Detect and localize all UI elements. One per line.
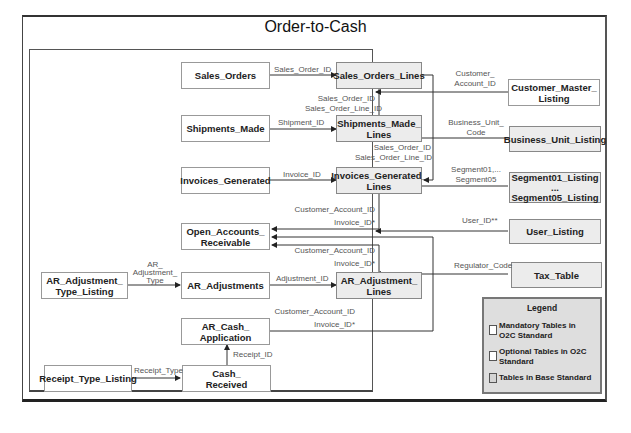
label-line-2: Invoice_ID* xyxy=(290,216,375,229)
table-label: Sales_Orders xyxy=(195,70,256,81)
label-line-2: Invoice_ID* xyxy=(290,257,375,270)
table-cash-received[interactable]: Cash_ Received xyxy=(182,365,271,392)
table-receipt-type-listing[interactable]: Receipt_Type_Listing xyxy=(44,365,132,392)
table-label-2: Lines xyxy=(367,286,392,297)
label-user-id: User_ID** xyxy=(462,216,498,226)
label-shipment-id: Shipment_ID xyxy=(278,118,324,128)
swatch-icon xyxy=(489,325,497,335)
table-label-1: Customer_Master_ xyxy=(511,82,597,93)
label-sales-order-id: Sales_Order_ID xyxy=(274,65,331,75)
label-line-1: Segment01,... xyxy=(450,165,502,175)
table-label: AR_Adjustments xyxy=(187,280,264,291)
table-label-2: Application xyxy=(200,332,252,343)
label-line-2: Account_ID xyxy=(450,79,500,89)
legend-item-optional: Optional Tables in O2CStandard xyxy=(489,347,586,367)
legend-text: Mandatory Tables inO2C Standard xyxy=(499,321,576,341)
table-sales-orders-lines[interactable]: Sales_Orders_Lines xyxy=(336,62,422,89)
label-line-1: Sales_Order_ID xyxy=(305,94,375,104)
label-line-2: Code xyxy=(448,128,504,138)
label-line-2: Sales_Order_Line_ID xyxy=(305,104,375,114)
table-label-2: Receivable xyxy=(201,237,251,248)
table-customer-master-listing[interactable]: Customer_Master_ Listing xyxy=(508,79,600,106)
label-line-2: Sales_Order_Line_ID xyxy=(355,153,431,163)
legend-text-line-1: Optional Tables in O2C xyxy=(499,347,586,356)
table-invoices-generated-lines[interactable]: Invoices_Generated_ Lines xyxy=(336,167,422,194)
legend-text-line-2: O2C Standard xyxy=(499,331,552,340)
label-receipt-id: Receipt_ID xyxy=(233,350,273,360)
legend-item-base: Tables in Base Standard xyxy=(489,373,591,383)
table-label: Tax_Table xyxy=(534,270,579,281)
label-sml-to-igl: Sales_Order_ID Sales_Order_Line_ID xyxy=(355,143,431,163)
label-adjustment-id: Adjustment_ID xyxy=(276,274,328,284)
table-label-1: Shipments_Made_ xyxy=(337,118,420,129)
label-customer-account-id: Customer_ Account_ID xyxy=(450,69,500,89)
table-label-2: Lines xyxy=(367,181,392,192)
table-label-2: Type_Listing xyxy=(56,286,114,297)
table-label-1: Segment01_Listing xyxy=(511,173,598,183)
table-label-2: Lines xyxy=(367,129,392,140)
label-line-2: Invoice_ID* xyxy=(270,318,355,331)
label-cash-to-oar: Customer_Account_ID Invoice_ID* xyxy=(270,305,355,331)
legend: Legend Mandatory Tables inO2C Standard O… xyxy=(482,297,602,394)
table-label: Shipments_Made xyxy=(186,123,264,134)
label-invoice-id: Invoice_ID xyxy=(283,170,321,180)
table-label: Receipt_Type_Listing xyxy=(39,373,137,384)
table-label-2: Received xyxy=(206,379,248,390)
diagram-title: Order-to-Cash xyxy=(0,18,631,36)
table-label-2: Listing xyxy=(538,93,569,104)
legend-text-line-1: Mandatory Tables in xyxy=(499,321,576,330)
table-ar-adjustments[interactable]: AR_Adjustments xyxy=(181,272,270,299)
label-ar-adjustment-type: AR_ Adjustment_ Type xyxy=(130,261,180,285)
label-line-1: Customer_ xyxy=(450,69,500,79)
table-sales-orders[interactable]: Sales_Orders xyxy=(181,62,270,89)
swatch-icon xyxy=(489,373,497,383)
legend-text: Tables in Base Standard xyxy=(499,373,591,383)
label-line-1: Sales_Order_ID xyxy=(355,143,431,153)
table-tax-table[interactable]: Tax_Table xyxy=(511,262,602,288)
label-line-1: Customer_Account_ID xyxy=(290,244,375,257)
label-line-1: Business_Unit_ xyxy=(448,118,504,128)
label-regulator-code: Regulator_Code xyxy=(454,261,512,271)
label-receipt-type: Receipt_Type xyxy=(134,366,183,376)
table-segment-listing[interactable]: Segment01_Listing ... Segment05_Listing xyxy=(509,172,601,203)
table-label-1: Invoices_Generated_ xyxy=(331,170,427,181)
legend-title: Legend xyxy=(484,303,600,313)
label-adjl-to-oar: Customer_Account_ID Invoice_ID* xyxy=(290,244,375,270)
swatch-icon xyxy=(489,351,497,361)
table-ar-adjustment-lines[interactable]: AR_Adjustment_ Lines xyxy=(336,272,422,299)
table-label-1: AR_Cash_ xyxy=(202,321,250,332)
legend-text: Optional Tables in O2CStandard xyxy=(499,347,586,367)
label-business-unit-code: Business_Unit_ Code xyxy=(448,118,504,138)
table-ar-adjustment-type-listing[interactable]: AR_Adjustment_ Type_Listing xyxy=(41,272,128,299)
label-igl-to-oar: Customer_Account_ID Invoice_ID* xyxy=(290,203,375,229)
table-shipments-made[interactable]: Shipments_Made xyxy=(181,115,270,142)
table-open-accounts-receivable[interactable]: Open_Accounts_ Receivable xyxy=(181,223,270,250)
legend-text-line-2: Standard xyxy=(499,357,534,366)
table-label-1: Open_Accounts_ xyxy=(186,226,264,237)
table-label-1: Cash_ xyxy=(212,368,241,379)
label-line-1: Customer_Account_ID xyxy=(270,305,355,318)
legend-item-mandatory: Mandatory Tables inO2C Standard xyxy=(489,321,576,341)
label-line-2: Segment05 xyxy=(450,175,502,185)
table-label: User_Listing xyxy=(526,226,584,237)
label-segments: Segment01,... Segment05 xyxy=(450,165,502,185)
table-label: Sales_Orders_Lines xyxy=(333,70,424,81)
table-label-1: AR_Adjustment_ xyxy=(341,275,418,286)
table-label-2: ... xyxy=(551,183,559,193)
table-label-1: AR_Adjustment_ xyxy=(46,275,123,286)
table-business-unit-listing[interactable]: Business_Unit_Listing xyxy=(509,126,601,152)
table-invoices-generated[interactable]: Invoices_Generated xyxy=(181,167,270,194)
label-sol-to-sml: Sales_Order_ID Sales_Order_Line_ID xyxy=(305,94,375,114)
table-label: Invoices_Generated xyxy=(180,175,270,186)
table-ar-cash-application[interactable]: AR_Cash_ Application xyxy=(181,318,270,345)
table-label-3: Segment05_Listing xyxy=(511,193,598,203)
table-user-listing[interactable]: User_Listing xyxy=(509,219,601,244)
table-shipments-made-lines[interactable]: Shipments_Made_ Lines xyxy=(336,115,422,142)
label-line-1: Customer_Account_ID xyxy=(290,203,375,216)
label-line-3: Type xyxy=(130,277,180,285)
table-label: Business_Unit_Listing xyxy=(504,134,606,145)
